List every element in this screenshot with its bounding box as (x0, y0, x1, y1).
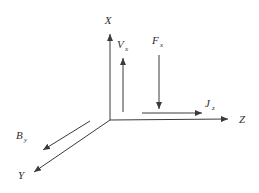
vector-by-label-subscript: y (23, 136, 28, 144)
vector-by-label: B (16, 129, 23, 141)
vector-by-arrow (43, 121, 90, 150)
vector-vx-label: V (117, 38, 125, 50)
vector-vx-label-subscript: x (124, 45, 129, 53)
vector-jz-label: J (205, 97, 211, 109)
vector-fx-label-subscript: x (159, 41, 164, 49)
vector-diagram: X Y Z V x F x J z B y (0, 0, 259, 193)
y-axis-line (34, 120, 110, 172)
vector-fx-label: F (151, 34, 159, 46)
vector-jz-label-subscript: z (211, 104, 215, 112)
z-axis-line (110, 119, 228, 120)
diagram-canvas: X Y Z V x F x J z B y (0, 0, 259, 193)
z-axis-label: Z (239, 113, 246, 125)
x-axis-label: X (104, 14, 113, 26)
y-axis-label: Y (18, 169, 26, 181)
